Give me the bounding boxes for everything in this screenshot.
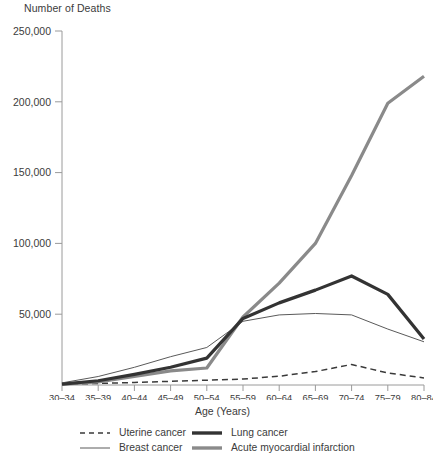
x-axis-title: Age (Years)	[6, 405, 433, 417]
legend-swatch-dashed-icon	[80, 427, 110, 439]
legend-swatch-thick-dark-icon	[192, 427, 222, 439]
legend-item-acute-myocardial-infarction: Acute myocardial infarction	[192, 442, 355, 454]
series-line-breast-cancer	[62, 313, 424, 382]
legend-label: Acute myocardial infarction	[231, 442, 355, 453]
x-tick-label: 45–49	[158, 393, 184, 400]
line-chart-figure: Number of Deaths 250,000200,000150,00010…	[0, 0, 433, 461]
legend-item-breast-cancer: Breast cancer	[80, 442, 192, 454]
x-tick-label: 70–74	[339, 393, 365, 400]
x-tick-label: 65–69	[302, 393, 328, 400]
x-tick-label: 30–34	[49, 393, 75, 400]
x-tick-label: 75–79	[375, 393, 401, 400]
legend-row: Breast cancer Acute myocardial infarctio…	[80, 440, 430, 455]
legend-item-uterine-cancer: Uterine cancer	[80, 427, 192, 439]
x-axis-tick-labels: 30–3435–3940–4445–4950–5455–5960–6465–69…	[49, 393, 433, 400]
series-lines	[62, 76, 424, 384]
y-axis-ticks: 250,000200,000150,000100,00050,000	[13, 25, 62, 320]
series-line-uterine-cancer	[62, 364, 424, 384]
x-tick-label: 50–54	[194, 393, 220, 400]
plot-area: 250,000200,000150,000100,00050,000 30–34…	[0, 0, 433, 400]
legend-swatch-thin-solid-icon	[80, 442, 110, 454]
chart-legend: Uterine cancer Lung cancer Breast cancer	[80, 425, 430, 455]
legend-swatch-thick-gray-icon	[192, 442, 222, 454]
y-tick-label: 200,000	[13, 96, 51, 108]
x-tick-label: 40–44	[121, 393, 147, 400]
x-tick-label: 80–84	[411, 393, 433, 400]
y-tick-label: 50,000	[19, 308, 51, 320]
x-axis-ticks	[62, 385, 424, 391]
legend-row: Uterine cancer Lung cancer	[80, 425, 430, 440]
legend-item-lung-cancer: Lung cancer	[192, 427, 288, 439]
legend-label: Breast cancer	[119, 442, 183, 453]
y-tick-label: 250,000	[13, 25, 51, 37]
y-tick-label: 150,000	[13, 166, 51, 178]
series-line-acute-myocardial-infarction	[62, 76, 424, 384]
legend-label: Lung cancer	[231, 427, 288, 438]
x-tick-label: 35–39	[85, 393, 111, 400]
series-line-lung-cancer	[62, 276, 424, 384]
legend-label: Uterine cancer	[119, 427, 186, 438]
x-tick-label: 60–64	[266, 393, 292, 400]
y-tick-label: 100,000	[13, 237, 51, 249]
x-tick-label: 55–59	[230, 393, 256, 400]
